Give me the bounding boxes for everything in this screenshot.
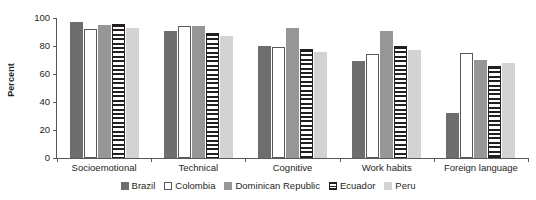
bar bbox=[126, 28, 139, 158]
bar-group bbox=[434, 18, 528, 158]
x-axis-label: Work habits bbox=[340, 162, 434, 173]
x-axis-label: Technical bbox=[151, 162, 245, 173]
bar-chart: Percent 020406080100 SocioemotionalTechn… bbox=[0, 0, 536, 200]
bar bbox=[206, 33, 219, 158]
legend-label: Colombia bbox=[175, 180, 215, 191]
y-axis-tick-label: 40 bbox=[39, 97, 53, 107]
legend-swatch-icon bbox=[121, 182, 129, 190]
bar bbox=[164, 31, 177, 158]
legend-label: Peru bbox=[395, 180, 415, 191]
legend-label: Dominican Republic bbox=[235, 180, 319, 191]
bar bbox=[394, 46, 407, 158]
x-axis-label: Cognitive bbox=[245, 162, 339, 173]
bar-group bbox=[151, 18, 245, 158]
bar bbox=[474, 60, 487, 158]
bar bbox=[366, 54, 379, 158]
y-axis-ticks: 020406080100 bbox=[0, 0, 57, 200]
legend: BrazilColombiaDominican RepublicEcuadorP… bbox=[0, 180, 536, 191]
bar-group bbox=[340, 18, 434, 158]
y-axis-tick-label: 80 bbox=[39, 41, 53, 51]
x-axis-label: Socioemotional bbox=[57, 162, 151, 173]
legend-item: Dominican Republic bbox=[224, 180, 319, 191]
bar bbox=[380, 31, 393, 158]
x-axis-tick-mark bbox=[528, 158, 529, 162]
bar bbox=[502, 63, 515, 158]
legend-item: Colombia bbox=[164, 180, 215, 191]
y-axis-tick-label: 100 bbox=[34, 13, 53, 23]
bar-group bbox=[245, 18, 339, 158]
plot-area bbox=[57, 18, 528, 158]
bar bbox=[178, 26, 191, 158]
legend-label: Ecuador bbox=[340, 180, 375, 191]
bar bbox=[98, 25, 111, 158]
bar bbox=[192, 26, 205, 158]
legend-item: Brazil bbox=[121, 180, 156, 191]
bar bbox=[70, 22, 83, 158]
legend-swatch-icon bbox=[224, 182, 232, 190]
legend-swatch-icon bbox=[329, 182, 337, 190]
bar bbox=[84, 29, 97, 158]
bar bbox=[446, 113, 459, 158]
bar bbox=[488, 66, 501, 158]
y-axis-tick-label: 60 bbox=[39, 69, 53, 79]
legend-swatch-icon bbox=[164, 182, 172, 190]
legend-item: Ecuador bbox=[329, 180, 375, 191]
bar bbox=[408, 50, 421, 158]
x-axis-line bbox=[56, 158, 528, 159]
y-axis-tick-label: 0 bbox=[45, 153, 53, 163]
bar bbox=[220, 36, 233, 158]
legend-item: Peru bbox=[384, 180, 415, 191]
bar bbox=[258, 46, 271, 158]
bar bbox=[300, 49, 313, 158]
legend-label: Brazil bbox=[132, 180, 156, 191]
bar bbox=[286, 28, 299, 158]
y-axis-tick-label: 20 bbox=[39, 125, 53, 135]
bar-group bbox=[57, 18, 151, 158]
legend-swatch-icon bbox=[384, 182, 392, 190]
bar bbox=[272, 47, 285, 158]
bar bbox=[352, 61, 365, 158]
bar bbox=[460, 53, 473, 158]
bar bbox=[112, 24, 125, 158]
x-axis-labels: SocioemotionalTechnicalCognitiveWork hab… bbox=[57, 162, 528, 173]
bar bbox=[314, 52, 327, 158]
x-axis-label: Foreign language bbox=[434, 162, 528, 173]
